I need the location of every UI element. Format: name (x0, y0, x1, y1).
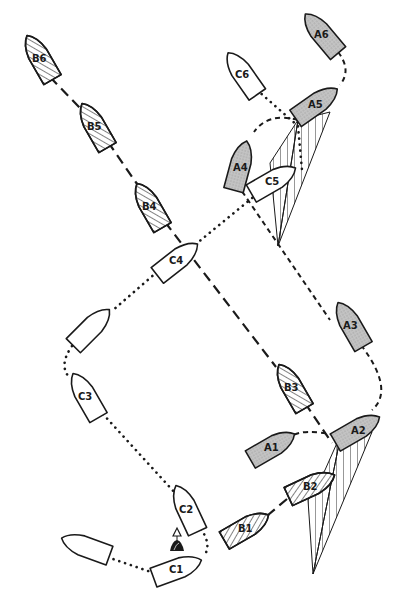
boat-label: C1 (169, 564, 183, 575)
boat-label: B3 (284, 382, 299, 393)
boat-label: C5 (265, 176, 279, 187)
boat-b4: B4 (128, 178, 171, 232)
boat-label: C4 (169, 255, 183, 266)
boat-label: A1 (264, 442, 279, 453)
boat-label: B4 (142, 201, 157, 212)
boat-a6: A6 (298, 8, 346, 60)
overlap-sector-lower (308, 432, 372, 574)
boat-a3: A3 (329, 297, 372, 351)
boat-label: B1 (238, 523, 253, 534)
boat-label: B2 (303, 481, 318, 492)
boat-c3: C3 (64, 368, 107, 422)
boat-label: A6 (314, 29, 329, 40)
boat-c1: C1 (150, 551, 205, 587)
boat-label: A2 (351, 425, 366, 436)
boat-label: C6 (235, 69, 249, 80)
buoy-mark-icon (170, 528, 184, 551)
boat-label: B6 (32, 53, 47, 64)
boat-c6: C6 (220, 47, 266, 100)
boat-label: A4 (233, 162, 248, 173)
boat-positions-diagram: A1 A2 A3 A4 A5 A6 B1 B2 B3 B4 (0, 0, 409, 598)
boat-label: C2 (179, 504, 193, 515)
boat-c4: C4 (151, 236, 204, 283)
boat-label: C3 (78, 391, 92, 402)
boat-b3: B3 (270, 359, 313, 413)
boat-label: A5 (308, 99, 323, 110)
boat-b1: B1 (219, 506, 273, 549)
boat-label: A3 (343, 320, 358, 331)
boat-label: B5 (87, 121, 102, 132)
boat-c-unlabeled-upper (66, 303, 116, 353)
boat-b6: B6 (18, 30, 61, 84)
boat-a1: A1 (245, 425, 299, 468)
boat-c-unlabeled-lower (58, 529, 113, 565)
